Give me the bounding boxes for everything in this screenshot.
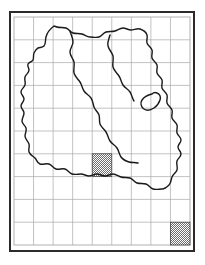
coastal-bay-feature (141, 93, 160, 111)
region-outer-boundary (21, 26, 181, 189)
map-outline-layer (14, 17, 190, 245)
distribution-map-figure (0, 0, 205, 265)
map-plot-area (14, 17, 190, 245)
region-internal-boundary-east (108, 35, 134, 101)
region-internal-boundary-north (70, 31, 138, 163)
